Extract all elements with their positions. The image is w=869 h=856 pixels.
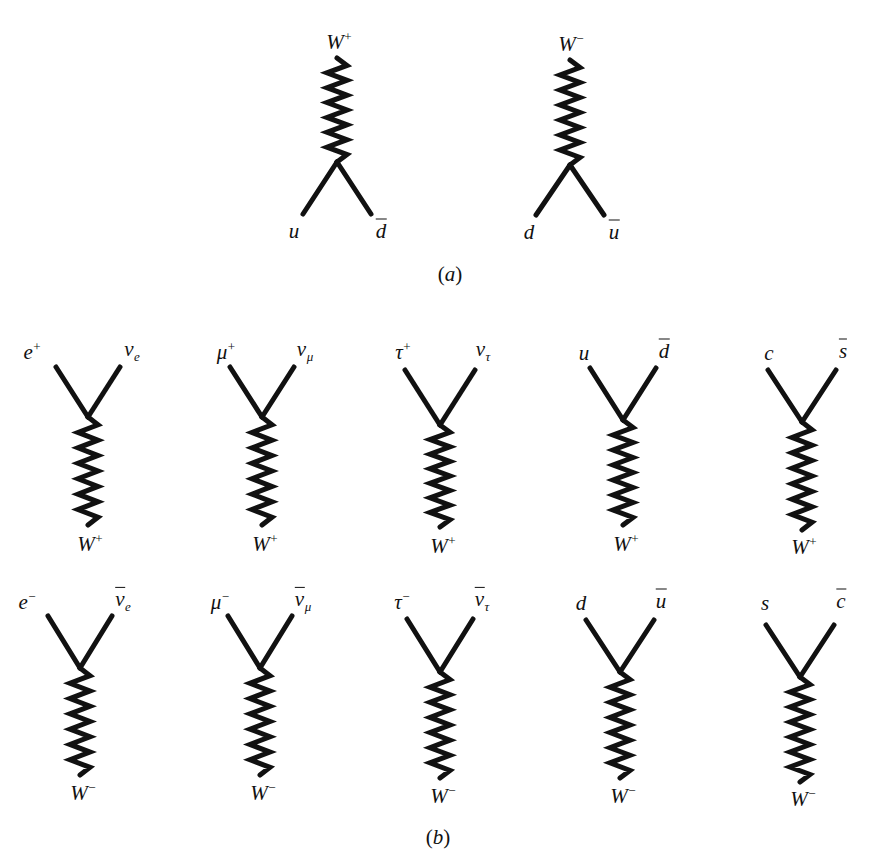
w-minus-to-muon-antinu-mu-left-particle-label: μ−	[211, 590, 229, 613]
w-minus-to-tau-antinu-tau-left-particle-label: τ−	[394, 590, 409, 613]
w-plus-to-antitau-nu-tau-right-particle-label: ντ	[476, 339, 491, 363]
w-minus-to-s-cbar-left-particle-label: s	[761, 593, 769, 614]
w-minus-to-d-ubar-left-particle-label: d	[524, 222, 535, 243]
panel-caption-a: (a)	[438, 262, 463, 287]
diagram-stroke	[430, 425, 450, 527]
diagram-stroke	[78, 417, 98, 525]
diagram-stroke	[440, 619, 473, 672]
w-minus-to-d-ubar-right-particle-label: u	[609, 222, 620, 243]
diagram-stroke	[88, 367, 120, 417]
diagram-stroke	[252, 417, 272, 525]
w-plus-to-u-dbar-boson-label: W+	[326, 30, 351, 53]
w-plus-to-antimuon-nu-mu-boson-label: W+	[252, 532, 277, 555]
feynman-diagram-figure: udW+duW−(a)e+νeW+μ+νμW+τ+ντW+udW+csW+e−ν…	[0, 0, 869, 856]
diagram-stroke	[230, 367, 262, 417]
diagram-stroke	[613, 420, 633, 525]
w-minus-to-d-ubar-boson-label: W−	[558, 32, 583, 55]
w-minus-to-d-ubar-b-right-particle-label: u	[656, 591, 667, 612]
w-plus-to-antitau-nu-tau-boson-label: W+	[430, 534, 455, 557]
diagram-stroke	[792, 422, 812, 530]
w-plus-to-c-sbar-boson-label: W+	[791, 535, 816, 558]
w-minus-to-s-cbar-boson-label: W−	[790, 787, 815, 810]
w-minus-to-electron-antinu-e-right-particle-label: νe	[115, 589, 131, 613]
diagram-stroke	[407, 619, 440, 672]
w-minus-to-s-cbar-right-particle-label: c	[836, 591, 845, 612]
diagram-stroke	[623, 368, 656, 420]
diagram-stroke	[262, 367, 294, 417]
diagram-stroke	[590, 368, 623, 420]
diagram-stroke	[430, 672, 450, 778]
w-plus-to-c-sbar-right-particle-label: s	[839, 341, 847, 362]
diagram-stroke	[536, 165, 570, 215]
diagram-stroke	[80, 616, 112, 668]
panel-caption-b: (b)	[426, 825, 451, 850]
diagram-stroke	[620, 620, 654, 672]
w-plus-to-u-dbar-right-particle-label: d	[376, 221, 387, 242]
w-plus-to-antitau-nu-tau-left-particle-label: τ+	[395, 340, 410, 363]
w-plus-to-positron-nu-e-left-particle-label: e+	[23, 340, 40, 363]
w-minus-to-d-ubar-b-boson-label: W−	[610, 784, 635, 807]
w-plus-to-u-dbar-b-left-particle-label: u	[579, 343, 590, 364]
diagram-stroke	[250, 668, 270, 775]
w-plus-to-positron-nu-e-right-particle-label: νe	[124, 339, 140, 363]
diagram-stroke	[586, 620, 620, 672]
diagram-stroke	[766, 625, 800, 677]
w-minus-to-muon-antinu-mu-boson-label: W−	[250, 781, 275, 804]
diagram-stroke	[70, 668, 90, 775]
w-plus-to-u-dbar-b-boson-label: W+	[613, 532, 638, 555]
diagram-stroke	[405, 370, 440, 425]
w-plus-to-antimuon-nu-mu-right-particle-label: νμ	[297, 339, 313, 363]
diagram-stroke	[440, 370, 475, 425]
w-plus-to-u-dbar-left-particle-label: u	[289, 221, 300, 242]
w-minus-to-electron-antinu-e-boson-label: W−	[70, 781, 95, 804]
diagram-stroke	[560, 60, 580, 165]
diagram-stroke	[228, 616, 260, 668]
w-minus-to-muon-antinu-mu-right-particle-label: νμ	[295, 589, 311, 613]
diagram-stroke	[610, 672, 630, 778]
w-minus-to-electron-antinu-e-left-particle-label: e−	[18, 590, 35, 613]
w-minus-to-tau-antinu-tau-right-particle-label: ντ	[475, 589, 490, 613]
diagram-stroke	[303, 162, 337, 214]
diagram-stroke	[802, 370, 836, 422]
w-plus-to-u-dbar-b-right-particle-label: d	[659, 341, 670, 362]
w-plus-to-positron-nu-e-boson-label: W+	[77, 532, 102, 555]
diagram-stroke	[800, 625, 834, 677]
w-plus-to-c-sbar-left-particle-label: c	[764, 343, 773, 364]
w-minus-to-tau-antinu-tau-boson-label: W−	[430, 784, 455, 807]
diagram-stroke	[56, 367, 88, 417]
diagram-stroke	[48, 616, 80, 668]
w-plus-to-antimuon-nu-mu-left-particle-label: μ+	[217, 340, 235, 363]
diagram-stroke	[327, 58, 347, 162]
diagram-canvas	[0, 0, 869, 856]
w-minus-to-d-ubar-b-left-particle-label: d	[576, 593, 587, 614]
diagram-stroke	[260, 616, 292, 668]
diagram-stroke	[337, 162, 371, 214]
diagram-stroke	[570, 165, 604, 215]
diagram-stroke	[790, 677, 810, 782]
diagram-stroke	[768, 370, 802, 422]
